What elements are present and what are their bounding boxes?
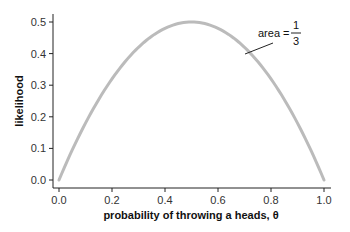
y-tick-label: 0.5: [31, 16, 46, 28]
x-tick-label: 0.6: [210, 194, 225, 206]
x-tick-label: 0.2: [104, 194, 119, 206]
x-tick-label: 0.4: [157, 194, 172, 206]
x-tick-label: 0.0: [51, 194, 66, 206]
likelihood-curve: [59, 22, 324, 180]
y-ticks: 0.00.10.20.30.40.5: [31, 16, 53, 186]
y-tick-label: 0.0: [31, 174, 46, 186]
likelihood-chart: 0.00.10.20.30.40.5 0.00.20.40.60.81.0 ar…: [0, 0, 350, 232]
y-tick-label: 0.3: [31, 79, 46, 91]
y-tick-label: 0.1: [31, 142, 46, 154]
annotation-leader-line: [245, 43, 273, 54]
x-tick-label: 1.0: [316, 194, 331, 206]
x-axis-title: probability of throwing a heads, θ: [103, 209, 278, 221]
y-tick-label: 0.4: [31, 48, 46, 60]
y-axis-title: likelihood: [13, 75, 25, 126]
x-ticks: 0.00.20.40.60.81.0: [51, 188, 331, 206]
x-tick-label: 0.8: [263, 194, 278, 206]
y-tick-label: 0.2: [31, 111, 46, 123]
annotation-label: area =: [258, 27, 290, 39]
annotation-numerator: 1: [293, 19, 299, 31]
annotation-denominator: 3: [293, 35, 299, 47]
